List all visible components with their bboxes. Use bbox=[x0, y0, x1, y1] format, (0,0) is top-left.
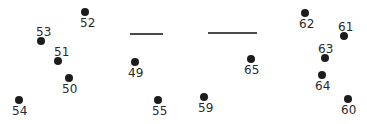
data-point-label: 59 bbox=[198, 102, 213, 114]
data-point-label: 63 bbox=[318, 43, 333, 55]
data-point-label: 53 bbox=[36, 26, 51, 38]
data-point-marker[interactable] bbox=[344, 95, 352, 103]
data-point-marker[interactable] bbox=[81, 8, 89, 16]
data-point-label: 64 bbox=[315, 80, 330, 92]
data-point-label: 62 bbox=[299, 18, 314, 30]
scatter-figure: 5450515352495559656261636460 bbox=[0, 0, 367, 124]
data-point-label: 65 bbox=[244, 64, 259, 76]
data-point-marker[interactable] bbox=[318, 71, 326, 79]
data-point-marker[interactable] bbox=[154, 96, 162, 104]
data-point-marker[interactable] bbox=[247, 55, 255, 63]
data-point-marker[interactable] bbox=[15, 96, 23, 104]
data-point-marker[interactable] bbox=[65, 74, 73, 82]
data-point-marker[interactable] bbox=[200, 93, 208, 101]
data-point-marker[interactable] bbox=[301, 9, 309, 17]
data-point-label: 60 bbox=[341, 104, 356, 116]
reference-segment bbox=[130, 33, 163, 35]
data-point-label: 54 bbox=[12, 105, 27, 117]
data-point-label: 51 bbox=[54, 46, 69, 58]
data-point-label: 52 bbox=[80, 17, 95, 29]
reference-segment bbox=[208, 32, 257, 34]
data-point-marker[interactable] bbox=[131, 58, 139, 66]
data-point-label: 61 bbox=[338, 21, 353, 33]
data-point-label: 50 bbox=[62, 83, 77, 95]
data-point-label: 55 bbox=[152, 105, 167, 117]
data-point-label: 49 bbox=[128, 67, 143, 79]
